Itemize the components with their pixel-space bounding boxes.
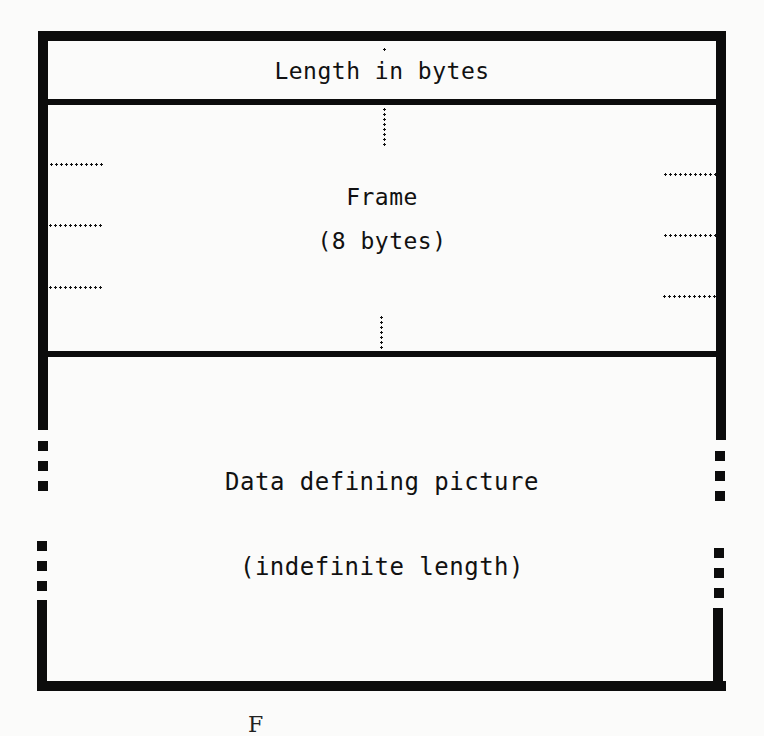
divider-length-frame — [38, 99, 726, 105]
divider-frame-data — [38, 351, 726, 357]
right-break-dash — [715, 491, 725, 501]
center-dotted-tick-bottom — [380, 315, 383, 351]
left-break-dash — [37, 541, 47, 551]
figure-caption-partial: F — [248, 712, 266, 736]
left-break-dash — [38, 441, 48, 451]
box-top-border — [38, 31, 726, 41]
box-right-border-upper — [716, 31, 726, 440]
right-break-dash — [715, 451, 725, 461]
left-break-dash — [37, 561, 47, 571]
right-break-dash — [714, 588, 724, 598]
right-break-dash — [715, 471, 725, 481]
left-dotted-tick — [48, 224, 104, 227]
left-break-dash — [38, 461, 48, 471]
right-dotted-tick — [663, 173, 717, 176]
left-break-dash — [38, 481, 48, 491]
data-label: Data defining picture — [48, 468, 716, 496]
right-dotted-tick — [662, 295, 716, 298]
left-break-dash — [37, 581, 47, 591]
data-length-label: (indefinite length) — [48, 553, 716, 581]
center-dot-top — [383, 47, 386, 52]
left-dotted-tick — [49, 163, 105, 166]
box-right-border-lower — [713, 608, 723, 691]
box-left-border-lower — [37, 600, 47, 691]
frame-label: Frame — [48, 184, 716, 210]
box-left-border-upper — [38, 31, 48, 430]
center-dotted-tick-top — [383, 107, 386, 147]
box-bottom-border — [38, 681, 726, 691]
left-dotted-tick — [48, 286, 104, 289]
frame-size-label: (8 bytes) — [48, 228, 716, 254]
length-label: Length in bytes — [48, 58, 716, 84]
